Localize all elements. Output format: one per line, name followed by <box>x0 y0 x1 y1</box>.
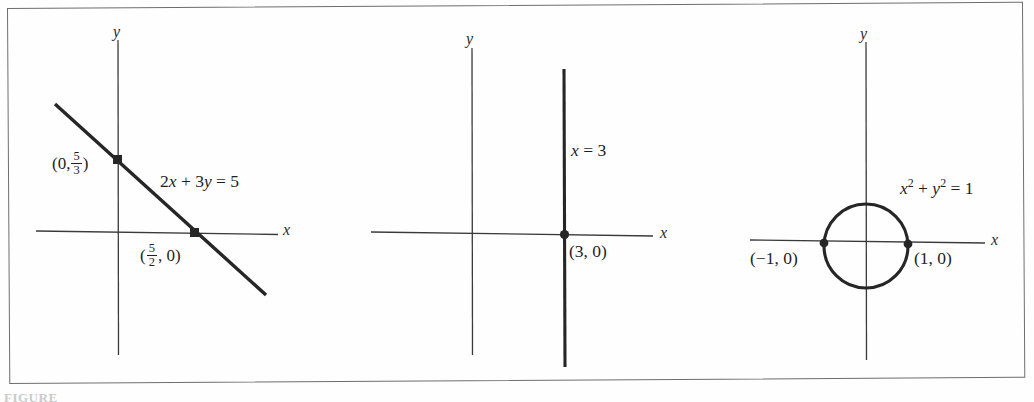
equation-label-circle: x2 + y2 = 1 <box>900 178 973 197</box>
fraction-numerator: 5 <box>147 242 157 255</box>
label-y-intercept-lead: (0, <box>52 154 70 173</box>
figure-root: y x (0,53) (52, 0) 2x + 3y = 5 2x + 3y =… <box>0 0 1034 402</box>
point-left-intercept <box>820 239 829 248</box>
x-axis-label: x <box>660 225 667 241</box>
fraction-5-2: 52 <box>147 242 157 269</box>
fraction-denominator: 2 <box>147 255 157 269</box>
point-x-intercept <box>560 230 569 239</box>
x-axis-label: x <box>991 232 998 248</box>
caption-sliver: FIGURE <box>4 393 154 402</box>
label-y-intercept: (0,53) <box>52 150 88 177</box>
equation-label-vertical: x = 3 <box>571 142 606 160</box>
x-axis <box>371 232 653 236</box>
circle-panel-graphic <box>695 0 1034 402</box>
x-axis-label: x <box>283 222 290 238</box>
label-x-intercept: (52, 0) <box>140 242 181 269</box>
label-right-intercept: (1, 0) <box>914 250 952 268</box>
label-x-intercept-lead: ( <box>140 246 146 265</box>
y-axis <box>472 48 473 355</box>
y-axis-label: y <box>113 24 120 40</box>
y-axis <box>866 42 867 360</box>
y-axis-label: y <box>860 26 867 42</box>
line-panel-graphic <box>0 0 345 402</box>
vertical-line-panel-graphic <box>345 0 695 402</box>
label-y-intercept-trail: ) <box>83 154 89 173</box>
x-axis <box>36 231 278 235</box>
y-axis <box>118 40 119 355</box>
equation-rest: = 3 <box>579 140 606 160</box>
equation-var: x <box>571 140 579 160</box>
label-x-intercept-trail: , 0) <box>158 246 181 265</box>
label-left-intercept: (−1, 0) <box>750 250 798 268</box>
x-axis <box>750 240 985 243</box>
line-x-equals-3 <box>564 69 565 367</box>
line-panel: y x (0,53) (52, 0) 2x + 3y = 5 2x + 3y =… <box>0 0 345 402</box>
fraction-5-3: 53 <box>71 150 81 177</box>
equation-x: x <box>900 178 908 198</box>
equation-label-line: 2x + 3y = 5 <box>160 173 239 191</box>
circle-panel: y x x2 + y2 = 1 (−1, 0) (1, 0) <box>695 0 1034 402</box>
equation-y: y <box>932 178 940 198</box>
point-x-intercept <box>190 228 199 237</box>
fraction-denominator: 3 <box>71 163 81 177</box>
vertical-line-panel: y x x = 3 (3, 0) <box>345 0 695 402</box>
equation-plus: + <box>914 178 933 198</box>
y-axis-label: y <box>466 31 473 47</box>
point-right-intercept <box>904 240 913 249</box>
equation-tail: = 1 <box>946 178 973 198</box>
fraction-numerator: 5 <box>71 150 81 163</box>
point-y-intercept <box>113 155 122 164</box>
label-x-intercept: (3, 0) <box>569 243 607 261</box>
